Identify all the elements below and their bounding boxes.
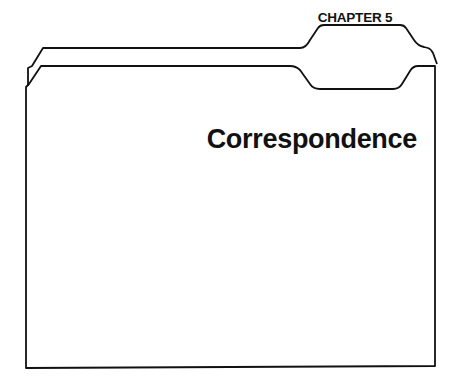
folder-illustration — [0, 0, 459, 387]
back-folder-outline — [28, 25, 437, 86]
chapter-title: Correspondence — [207, 124, 417, 155]
chapter-tab-label: CHAPTER 5 — [310, 10, 400, 25]
front-folder-outline — [26, 66, 435, 368]
